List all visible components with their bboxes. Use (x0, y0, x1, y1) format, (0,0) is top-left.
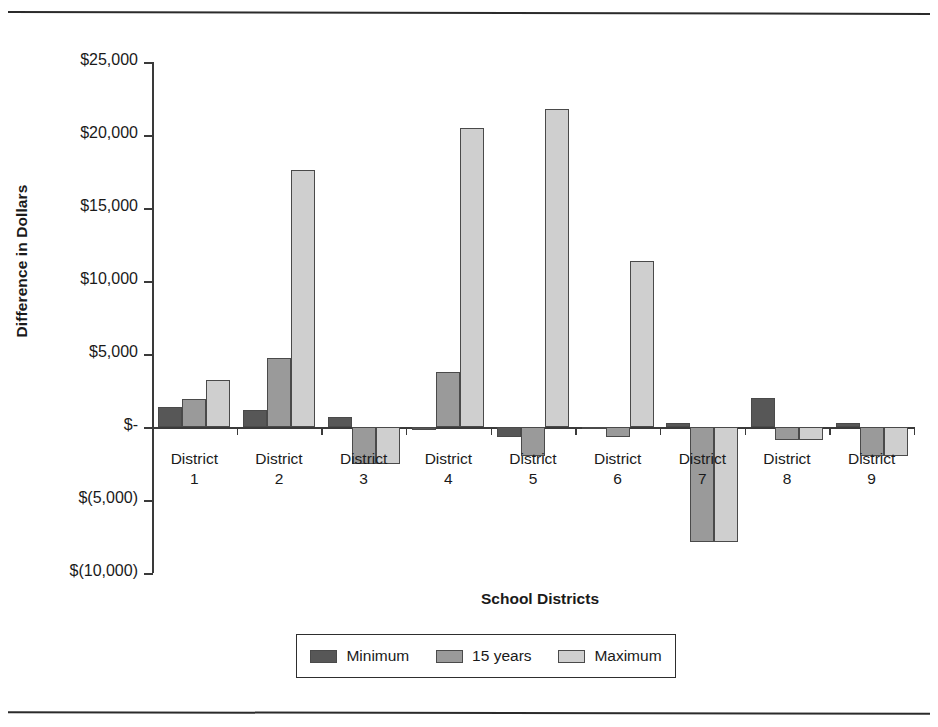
bar (291, 170, 315, 427)
bar-group (321, 62, 406, 573)
x-axis-tick (914, 427, 915, 435)
x-axis-category-label: District7 (660, 449, 745, 489)
legend-label: Minimum (346, 647, 409, 665)
legend-swatch-icon (436, 650, 463, 663)
category-label-line2: 2 (237, 469, 322, 489)
category-label-line1: District (406, 449, 491, 469)
bar (328, 417, 352, 427)
category-label-line1: District (575, 449, 660, 469)
x-axis-category-label: District9 (829, 449, 914, 489)
category-label-line1: District (321, 449, 406, 469)
legend-item[interactable]: 15 years (436, 647, 531, 665)
bar (606, 427, 630, 437)
y-axis-tick-label: $10,000 (0, 270, 138, 288)
x-axis-category-label: District5 (491, 449, 576, 489)
bar-group (491, 62, 576, 573)
legend-label: Maximum (594, 647, 661, 665)
bar-group (237, 62, 322, 573)
legend-swatch-icon (558, 650, 585, 663)
legend-label: 15 years (472, 647, 531, 665)
bar (206, 380, 230, 427)
x-axis-category-label: District8 (745, 449, 830, 489)
category-label-line2: 6 (575, 469, 660, 489)
bar (243, 410, 267, 427)
y-axis-title: Difference in Dollars (13, 151, 31, 371)
bar-group (660, 62, 745, 573)
page-bottom-rule (8, 711, 930, 715)
category-label-line1: District (152, 449, 237, 469)
bar (630, 261, 654, 427)
y-axis-tick-label: $15,000 (0, 197, 138, 215)
bar (267, 358, 291, 427)
bar (412, 427, 436, 430)
category-label-line2: 1 (152, 469, 237, 489)
bar-group (745, 62, 830, 573)
bar (545, 109, 569, 427)
x-axis-category-label: District3 (321, 449, 406, 489)
bar (182, 399, 206, 427)
category-label-line1: District (660, 449, 745, 469)
category-label-line1: District (829, 449, 914, 469)
category-label-line2: 5 (491, 469, 576, 489)
bar (436, 372, 460, 427)
bar (775, 427, 799, 440)
category-label-line2: 8 (745, 469, 830, 489)
bar (799, 427, 823, 440)
x-axis-category-label: District4 (406, 449, 491, 489)
bar (836, 423, 860, 427)
chart-legend: Minimum15 yearsMaximum (296, 634, 676, 678)
bar-group (575, 62, 660, 573)
y-axis-tick-label: $(10,000) (0, 562, 138, 580)
y-axis-tick-label: $(5,000) (0, 489, 138, 507)
legend-item[interactable]: Maximum (558, 647, 661, 665)
x-axis-category-label: District1 (152, 449, 237, 489)
bar (582, 427, 606, 429)
y-axis-tick-label: $20,000 (0, 124, 138, 142)
plot-area (152, 62, 914, 573)
y-axis-tick (144, 573, 153, 575)
bar (460, 128, 484, 427)
category-label-line2: 4 (406, 469, 491, 489)
bar (497, 427, 521, 437)
bar-group (829, 62, 914, 573)
bar-group (406, 62, 491, 573)
bar-chart: Difference in Dollars School Districts $… (0, 20, 938, 620)
bar (666, 423, 690, 427)
category-label-line1: District (237, 449, 322, 469)
category-label-line1: District (745, 449, 830, 469)
category-label-line2: 3 (321, 469, 406, 489)
y-axis-tick-label: $25,000 (0, 51, 138, 69)
y-axis-tick-label: $5,000 (0, 343, 138, 361)
x-axis-title: School Districts (160, 590, 920, 608)
x-axis-category-label: District6 (575, 449, 660, 489)
y-axis-tick-label: $- (0, 416, 138, 434)
category-label-line2: 9 (829, 469, 914, 489)
bar-group (152, 62, 237, 573)
category-label-line1: District (491, 449, 576, 469)
bar (751, 398, 775, 427)
x-axis-category-label: District2 (237, 449, 322, 489)
legend-swatch-icon (310, 650, 337, 663)
page-header-fragment (230, 0, 530, 10)
page-top-rule (8, 11, 930, 15)
legend-item[interactable]: Minimum (310, 647, 409, 665)
category-label-line2: 7 (660, 469, 745, 489)
bar (158, 407, 182, 427)
